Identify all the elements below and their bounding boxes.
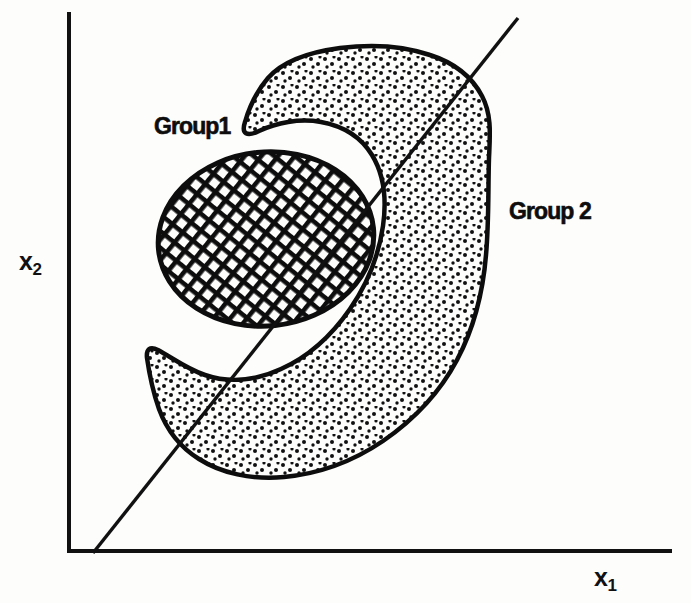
y-axis-label: x2	[19, 249, 41, 278]
group1-region	[149, 141, 382, 337]
x-axis-label-base: x	[594, 563, 607, 591]
group1-ellipse-shape	[149, 141, 382, 337]
x-axis-label: x1	[594, 565, 616, 594]
group2-label: Group 2	[509, 200, 591, 223]
y-axis-label-base: x	[19, 247, 32, 275]
y-axis-label-subscript: 2	[32, 260, 41, 279]
diagram-svg	[0, 0, 691, 603]
x-axis-label-subscript: 1	[607, 576, 616, 595]
group1-label: Group1	[154, 115, 230, 138]
figure-canvas: x2 x1 Group1 Group 2	[0, 0, 691, 603]
